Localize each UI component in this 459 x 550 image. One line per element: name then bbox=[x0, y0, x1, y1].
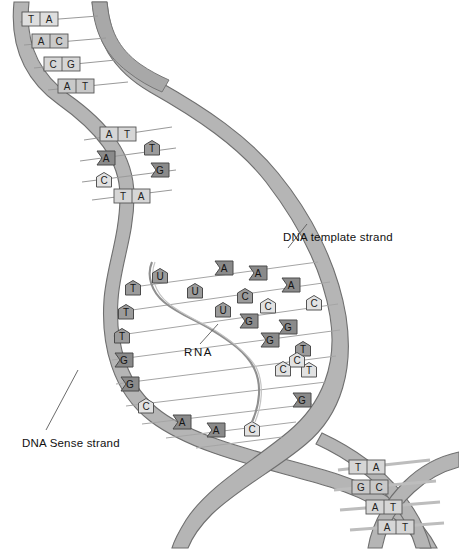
dna-transcription-figure: T A A C C G A bbox=[0, 0, 459, 550]
svg-text:G: G bbox=[67, 59, 75, 70]
label-dna-template-strand: DNA template strand bbox=[283, 231, 393, 243]
base-U: U bbox=[153, 269, 168, 284]
svg-text:C: C bbox=[310, 298, 317, 309]
svg-text:G: G bbox=[120, 355, 128, 366]
svg-text:C: C bbox=[100, 175, 107, 186]
svg-text:G: G bbox=[298, 395, 306, 406]
svg-text:A: A bbox=[46, 14, 53, 25]
svg-text:C: C bbox=[55, 36, 62, 47]
svg-text:T: T bbox=[402, 522, 408, 533]
svg-text:A: A bbox=[373, 462, 380, 473]
base-C: C bbox=[307, 296, 322, 311]
svg-text:T: T bbox=[119, 331, 125, 342]
svg-text:T: T bbox=[306, 365, 312, 376]
dna-diagram-svg: T A A C C G A bbox=[0, 0, 459, 550]
base-U: U bbox=[188, 284, 203, 299]
svg-text:A: A bbox=[38, 36, 45, 47]
svg-text:G: G bbox=[357, 482, 365, 493]
base-A: A bbox=[282, 278, 300, 292]
svg-text:A: A bbox=[384, 522, 391, 533]
svg-text:C: C bbox=[49, 59, 56, 70]
base-G: G bbox=[293, 393, 311, 407]
svg-text:C: C bbox=[264, 301, 271, 312]
base-T: T bbox=[119, 305, 134, 320]
svg-text:U: U bbox=[219, 305, 226, 316]
base-C: C bbox=[238, 289, 253, 304]
svg-text:G: G bbox=[266, 335, 274, 346]
svg-text:C: C bbox=[293, 355, 300, 366]
sense-strand-bases: T T T G G C A A C bbox=[115, 281, 260, 438]
base-A: A bbox=[207, 423, 225, 437]
svg-text:T: T bbox=[28, 14, 34, 25]
svg-text:C: C bbox=[375, 482, 382, 493]
svg-text:U: U bbox=[156, 271, 163, 282]
svg-text:A: A bbox=[106, 129, 113, 140]
svg-text:T: T bbox=[390, 502, 396, 513]
base-G: G bbox=[279, 320, 297, 334]
svg-text:C: C bbox=[248, 424, 255, 435]
base-C: C bbox=[245, 422, 260, 437]
label-dna-sense-strand: DNA Sense strand bbox=[22, 437, 120, 449]
svg-text:A: A bbox=[372, 502, 379, 513]
rna-bases: U U U G G C bbox=[152, 269, 291, 377]
svg-text:T: T bbox=[120, 191, 126, 202]
svg-text:A: A bbox=[64, 81, 71, 92]
svg-text:C: C bbox=[241, 291, 248, 302]
svg-text:G: G bbox=[284, 322, 292, 333]
svg-text:C: C bbox=[142, 401, 149, 412]
svg-text:T: T bbox=[123, 307, 129, 318]
svg-text:A: A bbox=[255, 268, 262, 279]
svg-text:T: T bbox=[149, 143, 155, 154]
base-A: A bbox=[215, 261, 233, 275]
svg-text:A: A bbox=[288, 280, 295, 291]
base-T: T bbox=[126, 281, 141, 296]
base-U: U bbox=[216, 303, 231, 318]
label-rna: RNA bbox=[184, 346, 213, 358]
svg-text:U: U bbox=[191, 286, 198, 297]
svg-text:T: T bbox=[124, 129, 130, 140]
base-G: G bbox=[240, 314, 258, 328]
rna-strand bbox=[150, 262, 259, 422]
svg-text:A: A bbox=[103, 153, 110, 164]
svg-text:T: T bbox=[300, 344, 306, 355]
svg-text:A: A bbox=[221, 263, 228, 274]
svg-text:G: G bbox=[156, 165, 164, 176]
svg-text:A: A bbox=[138, 191, 145, 202]
svg-text:T: T bbox=[130, 283, 136, 294]
svg-text:G: G bbox=[245, 316, 253, 327]
base-C: C bbox=[261, 299, 276, 314]
svg-text:T: T bbox=[82, 81, 88, 92]
svg-text:A: A bbox=[213, 425, 220, 436]
base-A: A bbox=[249, 266, 267, 280]
leader-sense-strand bbox=[46, 370, 78, 430]
svg-text:G: G bbox=[126, 379, 134, 390]
svg-text:T: T bbox=[355, 462, 361, 473]
svg-text:C: C bbox=[279, 364, 286, 375]
svg-text:A: A bbox=[179, 417, 186, 428]
